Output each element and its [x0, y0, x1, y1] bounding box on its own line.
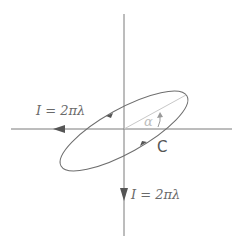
- major-axis-line: [124, 95, 186, 129]
- vertical-current-arrow-icon: [120, 188, 128, 201]
- angle-label: α: [144, 114, 153, 129]
- horizontal-current-arrow-icon: [53, 125, 65, 133]
- contour-diagram: α C I = 2πλ I = 2πλ: [0, 0, 242, 249]
- vertical-current-label: I = 2πλ: [130, 187, 180, 202]
- angle-arrow-icon: [157, 112, 163, 127]
- horizontal-current-label: I = 2πλ: [35, 103, 85, 118]
- contour-label: C: [157, 138, 167, 156]
